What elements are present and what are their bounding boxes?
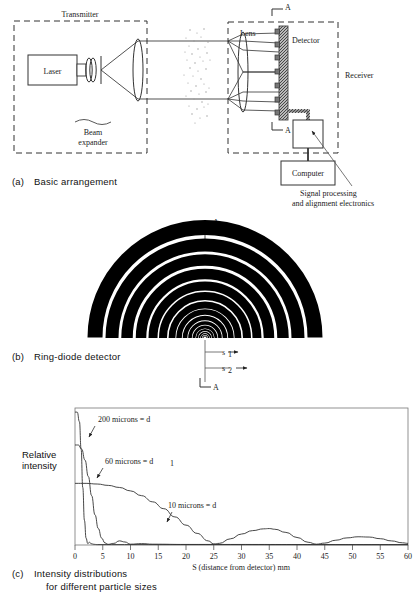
chart-series-line: [75, 483, 408, 544]
caption-a-text: Basic arrangement: [34, 176, 117, 187]
laser-source: Laser: [28, 55, 86, 85]
beam-expander-label-1: Beam: [84, 128, 103, 137]
section-mark-bottom: A: [272, 122, 291, 135]
ring-section-mark-bottom: A: [200, 378, 219, 392]
chart-series-group: [75, 412, 408, 545]
caption-a: (a)Basic arrangement: [12, 176, 117, 187]
annotation-60-subscript: 1: [170, 459, 174, 468]
xtick-3: 15: [154, 552, 162, 561]
xtick-4: 20: [182, 552, 190, 561]
section-mark-top: A: [272, 3, 291, 16]
caption-b-tag: (b): [12, 351, 34, 362]
chart-plot-frame: [75, 408, 408, 545]
ring-diode-detector: A s: [95, 218, 315, 392]
caption-c-tag: (c): [12, 568, 34, 581]
annotation-10-microns: 10 microns = d: [168, 501, 216, 510]
electronics-box: [293, 120, 323, 148]
objective-lens-2: [90, 58, 96, 82]
caption-c-text-line2: for different particle sizes: [46, 581, 157, 594]
computer-label: Computer: [292, 169, 324, 178]
ring-annuli: [95, 228, 315, 339]
caption-b: (b)Ring-diode detector: [12, 351, 121, 362]
particle-cloud: [183, 28, 210, 123]
beam-expander-optics: [86, 39, 143, 101]
laser-beam-rays: [101, 41, 228, 99]
chart-xticklabels: 0 5 10 15 20 25 30 35 40 45 50 55 60: [73, 552, 412, 561]
dim-label-s2: s: [222, 364, 225, 373]
caption-b-text: Ring-diode detector: [34, 351, 121, 362]
chart-series-line: [75, 412, 408, 545]
xtick-2: 10: [127, 552, 135, 561]
chart-xticks: [75, 545, 408, 550]
annotation-60-microns: 60 microns = d: [105, 457, 153, 466]
dim-sub-s1: 1: [228, 350, 232, 359]
chart-xlabel: S (distance from detector) mm: [192, 563, 291, 572]
transmitter-boundary: [14, 21, 147, 153]
chart-annotations: 200 microns = d 60 microns = d 1 10 micr…: [89, 415, 216, 522]
annotation-200-leader: [89, 426, 95, 437]
detector-label: Detector: [292, 36, 320, 45]
figure-root: Transmitter Laser Beam expander: [0, 0, 420, 600]
computer-group: Computer: [281, 161, 335, 185]
electronics-label-2: and alignment electronics: [292, 199, 374, 208]
detector-strip: [279, 26, 288, 120]
objective-lens: [86, 58, 92, 82]
xtick-7: 35: [265, 552, 273, 561]
ring-dimension-markers: s 1 s 2: [205, 340, 247, 382]
electronics-label-1: Signal processing: [300, 189, 357, 198]
xtick-12: 60: [404, 552, 412, 561]
receiver-label: Receiver: [345, 71, 374, 80]
section-mark-top-label: A: [285, 3, 291, 12]
collimating-lens: [133, 39, 143, 101]
laser-label: Laser: [44, 67, 62, 76]
intensity-chart: Relative intensity 0 5 10 15 20 25 3: [22, 408, 412, 572]
annotation-200-microns: 200 microns = d: [98, 415, 150, 424]
xtick-1: 5: [101, 552, 105, 561]
xtick-9: 45: [321, 552, 329, 561]
detector-array: Detector: [275, 26, 320, 120]
caption-a-tag: (a): [12, 176, 34, 187]
transmitter-label: Transmitter: [61, 10, 98, 19]
laser-aperture: [77, 64, 86, 76]
xtick-10: 50: [349, 552, 357, 561]
beam-expander-annotation: Beam expander: [75, 120, 111, 148]
beam-expander-label-2: expander: [78, 138, 108, 147]
scattered-rays: [228, 33, 279, 111]
caption-c-text-line1: Intensity distributions: [34, 568, 127, 579]
xtick-8: 40: [293, 552, 301, 561]
section-mark-bottom-label: A: [285, 126, 291, 135]
xtick-0: 0: [73, 552, 77, 561]
xtick-11: 55: [376, 552, 384, 561]
annotation-60-leader: [97, 468, 103, 478]
dim-label-s1: s: [222, 348, 225, 357]
xtick-5: 25: [210, 552, 218, 561]
dim-sub-s2: 2: [228, 366, 232, 375]
beam-expander-brace: [75, 120, 111, 125]
chart-ylabel-line1: Relative: [22, 449, 56, 460]
xtick-6: 30: [238, 552, 246, 561]
caption-c: (c)Intensity distributions for different…: [12, 568, 157, 593]
ring-section-bottom-label: A: [213, 383, 219, 392]
chart-ylabel-line2: intensity: [22, 460, 57, 471]
